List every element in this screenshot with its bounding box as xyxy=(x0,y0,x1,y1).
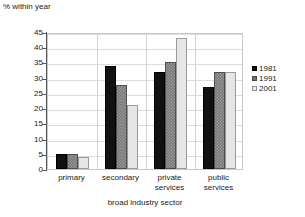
y-axis-tick-label: 0 xyxy=(23,166,43,174)
gridline xyxy=(48,64,242,65)
bar-primary-1981 xyxy=(56,154,67,169)
legend-item-label: 2001 xyxy=(259,85,277,93)
bar-public-services-1981 xyxy=(203,87,214,169)
y-axis-tick-label: 30 xyxy=(23,75,43,83)
bar-secondary-1981 xyxy=(105,66,116,170)
bar-secondary-2001 xyxy=(127,105,138,169)
y-axis-tickmark xyxy=(42,170,46,171)
bar-private-services-1981 xyxy=(154,72,165,169)
bar-chart: % within year 051015202530354045 primary… xyxy=(0,0,305,217)
y-axis-tickmark xyxy=(42,109,46,110)
y-axis-tick-label: 20 xyxy=(23,105,43,113)
y-axis-tick-label: 25 xyxy=(23,90,43,98)
category-separator xyxy=(97,34,98,169)
y-axis-tickmark xyxy=(42,33,46,34)
y-axis-tick-label: 10 xyxy=(23,136,43,144)
y-axis-tickmark xyxy=(42,124,46,125)
x-axis-tick-label: privateservices xyxy=(145,173,194,192)
legend-swatch-icon xyxy=(252,76,257,81)
legend-item-1991[interactable]: 1991 xyxy=(252,74,302,83)
x-axis-tick-label-line: secondary xyxy=(96,173,145,183)
gridline xyxy=(48,80,242,81)
y-axis-tick-label: 35 xyxy=(23,59,43,67)
x-axis-title: broad industry sector xyxy=(47,198,243,208)
legend: 198119912001 xyxy=(252,64,302,94)
y-axis-tickmark xyxy=(42,94,46,95)
category-separator xyxy=(195,34,196,169)
bar-public-services-2001 xyxy=(225,72,236,169)
x-axis-tick-label-line: private xyxy=(145,173,194,183)
gridline xyxy=(48,49,242,50)
bar-private-services-2001 xyxy=(176,38,187,169)
y-axis-tick-label: 5 xyxy=(23,151,43,159)
category-separator xyxy=(146,34,147,169)
bar-primary-1991 xyxy=(67,154,78,169)
x-axis-tick-label-line: services xyxy=(145,183,194,193)
y-axis-tick-labels: 051015202530354045 xyxy=(21,33,43,170)
legend-item-label: 1991 xyxy=(259,75,277,83)
y-axis-tickmark xyxy=(42,79,46,80)
legend-item-1981[interactable]: 1981 xyxy=(252,64,302,73)
x-axis-tick-label: publicservices xyxy=(194,173,243,192)
bar-private-services-1991 xyxy=(165,62,176,169)
legend-swatch-icon xyxy=(252,86,257,91)
legend-item-2001[interactable]: 2001 xyxy=(252,84,302,93)
y-axis-tickmark xyxy=(42,48,46,49)
legend-item-label: 1981 xyxy=(259,65,277,73)
y-axis-tickmark xyxy=(42,140,46,141)
bar-public-services-1991 xyxy=(214,72,225,169)
bar-secondary-1991 xyxy=(116,85,127,169)
bar-primary-2001 xyxy=(78,157,89,169)
x-axis-tick-labels: primarysecondaryprivateservicespublicser… xyxy=(47,173,243,197)
y-axis-tickmark xyxy=(42,155,46,156)
x-axis-tick-label: primary xyxy=(47,173,96,183)
y-axis-tick-label: 40 xyxy=(23,44,43,52)
y-axis-title: % within year xyxy=(3,2,51,12)
y-axis-tick-label: 15 xyxy=(23,120,43,128)
x-axis-tick-label: secondary xyxy=(96,173,145,183)
x-axis-tick-label-line: services xyxy=(194,183,243,193)
y-axis-tick-label: 45 xyxy=(23,29,43,37)
plot-area xyxy=(47,33,243,170)
x-axis-tick-label-line: public xyxy=(194,173,243,183)
legend-swatch-icon xyxy=(252,66,257,71)
y-axis-tickmark xyxy=(42,63,46,64)
gridline xyxy=(48,34,242,35)
x-axis-tick-label-line: primary xyxy=(47,173,96,183)
